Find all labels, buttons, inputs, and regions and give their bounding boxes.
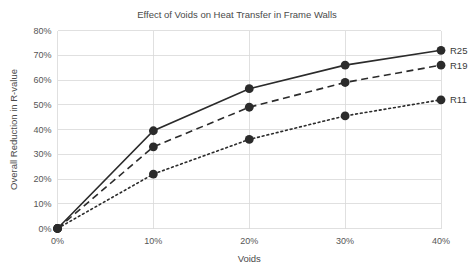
series-label-r11: R11 bbox=[450, 94, 467, 105]
data-point-r25 bbox=[437, 46, 446, 55]
data-point-r25 bbox=[245, 84, 254, 93]
y-tick-label: 70% bbox=[33, 50, 51, 60]
data-point-r19 bbox=[245, 103, 254, 112]
x-tick-label: 30% bbox=[336, 236, 354, 246]
series-label-r19: R19 bbox=[450, 60, 467, 71]
data-point-r11 bbox=[437, 95, 446, 104]
series-label-r25: R25 bbox=[450, 45, 467, 56]
data-point-r11 bbox=[53, 224, 62, 233]
y-tick-label: 50% bbox=[33, 100, 51, 110]
y-axis-title-group: Overall Reduction in R-value bbox=[8, 69, 19, 190]
y-tick-label: 30% bbox=[33, 149, 51, 159]
y-tick-label: 10% bbox=[33, 199, 51, 209]
y-tick-label: 20% bbox=[33, 174, 51, 184]
chart-title-group: Effect of Voids on Heat Transfer in Fram… bbox=[137, 9, 337, 20]
data-point-r11 bbox=[245, 135, 254, 144]
y-tick-label: 40% bbox=[33, 125, 51, 135]
y-axis-tick-labels: 0%10%20%30%40%50%60%70%80% bbox=[33, 26, 51, 234]
y-tick-label: 0% bbox=[38, 224, 51, 234]
data-point-r11 bbox=[341, 111, 350, 120]
line-chart: Effect of Voids on Heat Transfer in Fram… bbox=[0, 0, 474, 269]
x-tick-label: 40% bbox=[432, 236, 450, 246]
chart-title: Effect of Voids on Heat Transfer in Fram… bbox=[137, 9, 337, 20]
data-point-r25 bbox=[341, 61, 350, 70]
x-tick-label: 10% bbox=[144, 236, 162, 246]
y-tick-label: 80% bbox=[33, 26, 51, 36]
x-axis-title-group: Voids bbox=[238, 253, 261, 264]
x-axis-title: Voids bbox=[238, 253, 261, 264]
chart-figure: Effect of Voids on Heat Transfer in Fram… bbox=[0, 0, 474, 269]
series-end-labels: R25R19R11 bbox=[450, 45, 467, 105]
data-point-r19 bbox=[437, 61, 446, 70]
data-point-r25 bbox=[149, 126, 158, 135]
y-axis-title: Overall Reduction in R-value bbox=[8, 69, 19, 190]
y-tick-label: 60% bbox=[33, 75, 51, 85]
x-axis-tick-labels: 0%10%20%30%40% bbox=[51, 236, 450, 246]
x-tick-label: 0% bbox=[51, 236, 64, 246]
data-point-r11 bbox=[149, 170, 158, 179]
data-point-r19 bbox=[341, 78, 350, 87]
x-tick-label: 20% bbox=[240, 236, 258, 246]
data-point-r19 bbox=[149, 142, 158, 151]
